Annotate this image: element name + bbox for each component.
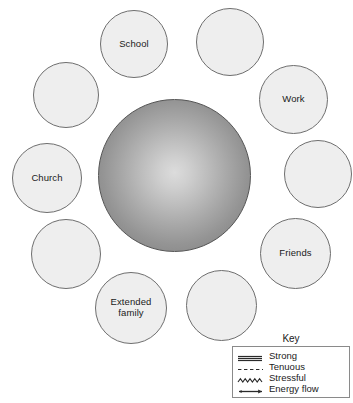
node-lower-left-blank[interactable] [31, 219, 101, 289]
triple-line-icon [236, 350, 266, 361]
node-label-work: Work [279, 94, 307, 105]
node-church[interactable]: Church [12, 143, 82, 213]
ecomap-diagram: SchoolWorkChurchFriendsExtended familyKe… [0, 0, 353, 403]
node-upper-left-blank[interactable] [33, 62, 99, 128]
zigzag-line-icon [236, 372, 266, 383]
node-label-friends: Friends [276, 248, 314, 259]
node-label-extended-family: Extended family [108, 297, 155, 319]
node-extended-family[interactable]: Extended family [95, 272, 167, 344]
arrow-line-icon [236, 383, 266, 394]
central-sphere [98, 99, 251, 252]
key-label-stressful: Stressful [269, 372, 306, 383]
key-row-tenuous: Tenuous [236, 361, 345, 372]
key-label-strong: Strong [269, 350, 297, 361]
dashed-line-icon [236, 361, 266, 372]
node-school[interactable]: School [100, 10, 168, 78]
node-right-blank[interactable] [284, 140, 352, 208]
key-legend-box: Strong Tenuous Stressful [232, 346, 350, 398]
node-label-church: Church [28, 173, 65, 184]
key-label-tenuous: Tenuous [269, 361, 305, 372]
node-bottom-blank[interactable] [186, 270, 257, 341]
node-work[interactable]: Work [259, 65, 328, 134]
key-row-strong: Strong [236, 350, 345, 361]
node-friends[interactable]: Friends [260, 218, 331, 289]
node-label-school: School [116, 39, 152, 50]
node-top-right-blank[interactable] [196, 8, 264, 76]
key-row-stressful: Stressful [236, 372, 345, 383]
key-title: Key [232, 333, 350, 344]
key-row-energy-flow: Energy flow [236, 383, 345, 394]
key-label-energy-flow: Energy flow [269, 383, 319, 394]
